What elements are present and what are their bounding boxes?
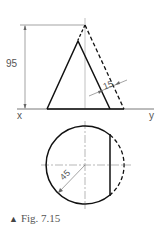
- arrow-down-icon: [24, 104, 27, 109]
- arrow-up-icon: [24, 25, 27, 30]
- x-label: x: [17, 110, 22, 121]
- hidden-cone-tip: [78, 25, 85, 40]
- y-label: y: [149, 110, 154, 121]
- triangle-marker-icon: ▲: [9, 214, 18, 224]
- orthographic-drawing: [0, 0, 165, 232]
- caption-text: Fig. 7.15: [21, 212, 60, 224]
- cut-cone-outline: [47, 41, 110, 109]
- arrow-slant-right-icon: [115, 81, 120, 85]
- height-dimension-label: 95: [6, 58, 17, 69]
- figure-caption: ▲Fig. 7.15: [9, 212, 60, 224]
